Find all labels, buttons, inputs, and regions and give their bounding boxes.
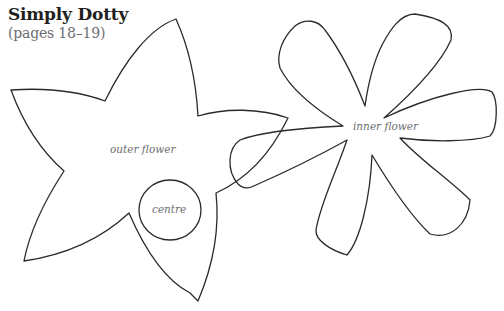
outer-flower-label: outer flower <box>110 143 175 155</box>
inner-flower-label: inner flower <box>353 120 418 132</box>
inner-flower-outline <box>230 14 496 255</box>
centre-label: centre <box>152 203 186 215</box>
template-canvas <box>0 0 504 311</box>
outer-flower-outline <box>11 19 288 301</box>
